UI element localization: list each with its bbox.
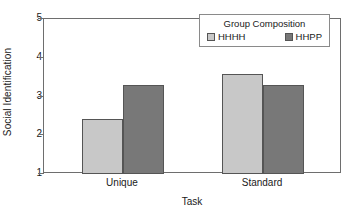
legend-label: HHHH xyxy=(218,31,245,42)
legend-swatch-icon xyxy=(285,33,293,41)
bar-chart-figure: Social Identification 12345 UniqueStanda… xyxy=(0,0,349,217)
x-axis-label: Task xyxy=(43,196,341,207)
legend-label: HHPP xyxy=(296,31,322,42)
bar xyxy=(222,74,263,174)
legend-swatch-icon xyxy=(207,33,215,41)
x-tick-label: Unique xyxy=(72,177,172,190)
y-axis-label: Social Identification xyxy=(2,12,16,172)
bar xyxy=(82,119,123,174)
legend-entries: HHHHHHPP xyxy=(205,31,324,42)
x-tick-label: Standard xyxy=(212,177,312,190)
legend: Group Composition HHHHHHPP xyxy=(199,14,330,47)
bar xyxy=(263,85,304,174)
y-tick-mark xyxy=(38,173,44,174)
legend-entry: HHPP xyxy=(285,31,322,42)
bar xyxy=(123,85,164,174)
legend-entry: HHHH xyxy=(207,31,245,42)
legend-title: Group Composition xyxy=(205,18,324,29)
